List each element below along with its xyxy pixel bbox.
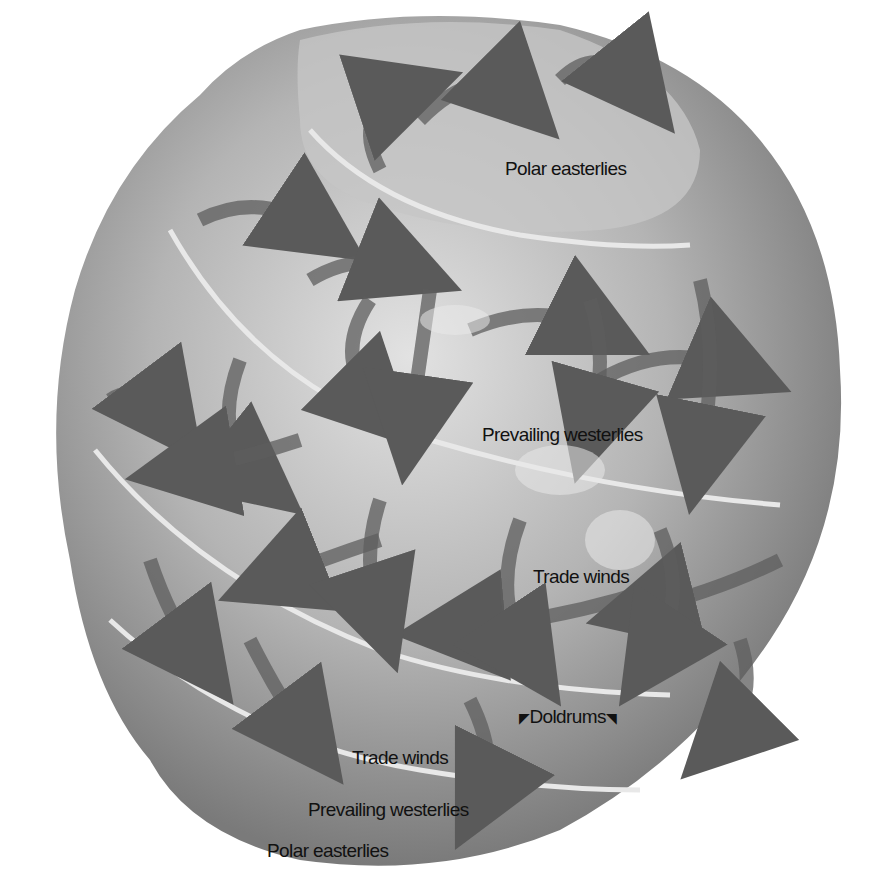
label-trade-winds-south: Trade winds [352,747,448,769]
label-prevailing-westerlies-north: Prevailing westerlies [482,424,643,446]
doldrums-right-arrow-icon: ◥ [606,710,616,726]
label-doldrums: Doldrums [529,706,606,727]
label-polar-easterlies-south: Polar easterlies [267,840,388,862]
label-trade-winds-north: Trade winds [533,566,629,588]
label-polar-easterlies-north: Polar easterlies [505,158,626,180]
doldrums-left-arrow-icon: ◤ [519,710,529,726]
doldrums-label-group: ◤Doldrums◥ [519,706,616,728]
label-prevailing-westerlies-south: Prevailing westerlies [308,799,469,821]
wind-belts-diagram: Polar easterlies Prevailing westerlies T… [0,0,871,896]
